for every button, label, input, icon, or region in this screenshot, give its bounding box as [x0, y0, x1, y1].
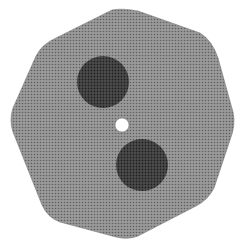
lower-dark-circle: [116, 139, 168, 191]
center-hole: [115, 118, 129, 132]
figure-canvas: [0, 0, 244, 246]
upper-dark-circle: [77, 56, 129, 108]
